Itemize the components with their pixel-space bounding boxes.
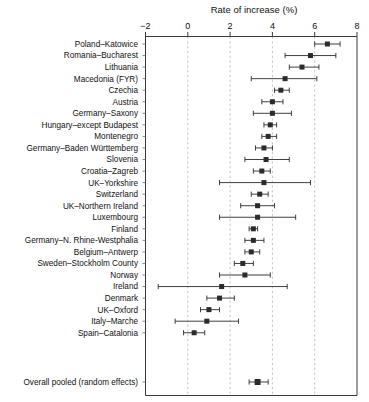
estimate-marker bbox=[217, 296, 222, 301]
study-row bbox=[251, 192, 268, 197]
estimate-marker bbox=[251, 226, 256, 231]
study-label: Hungary–except Budapest bbox=[42, 121, 139, 130]
study-row bbox=[245, 249, 260, 254]
study-label: Macedonia (FYR) bbox=[74, 75, 138, 84]
study-label: UK–Yorkshire bbox=[88, 179, 138, 188]
study-row bbox=[249, 226, 257, 231]
x-tick-label-6: 6 bbox=[312, 21, 317, 31]
x-tick-label-4: 4 bbox=[270, 21, 275, 31]
study-row bbox=[262, 134, 277, 139]
study-label: Ireland bbox=[113, 282, 138, 291]
study-label: Czechia bbox=[108, 86, 138, 95]
study-label: Slovenia bbox=[107, 155, 139, 164]
study-row bbox=[175, 319, 238, 324]
estimate-marker bbox=[268, 122, 273, 127]
study-label: Italy–Marche bbox=[91, 317, 138, 326]
estimate-marker bbox=[255, 203, 260, 208]
study-rows bbox=[158, 41, 340, 335]
study-row bbox=[264, 122, 277, 127]
study-row bbox=[285, 53, 336, 58]
study-row bbox=[251, 76, 317, 81]
estimate-marker bbox=[264, 157, 269, 162]
study-row bbox=[220, 272, 271, 277]
estimate-marker bbox=[219, 284, 224, 289]
x-tick-label--2: −2 bbox=[140, 21, 150, 31]
estimate-marker bbox=[283, 76, 288, 81]
study-row bbox=[200, 307, 219, 312]
estimate-marker bbox=[278, 88, 283, 93]
estimate-marker bbox=[192, 330, 197, 335]
study-row bbox=[184, 330, 205, 335]
estimate-marker bbox=[249, 249, 254, 254]
study-label: Sweden–Stockholm County bbox=[37, 259, 138, 268]
pooled-estimate-marker bbox=[255, 379, 261, 385]
study-label: Austria bbox=[113, 98, 139, 107]
study-label: Belgium–Antwerp bbox=[74, 248, 139, 257]
x-axis-ticks bbox=[146, 32, 358, 37]
estimate-marker bbox=[204, 319, 209, 324]
study-row bbox=[241, 203, 275, 208]
study-labels: Poland–KatowiceRomania–BucharestLithuani… bbox=[25, 40, 139, 338]
study-label: Germany–Saxony bbox=[72, 109, 138, 118]
study-row bbox=[245, 238, 264, 243]
pooled-label: Overall pooled (random effects) bbox=[23, 378, 138, 387]
study-label: Romania–Bucharest bbox=[64, 51, 139, 60]
estimate-marker bbox=[242, 273, 247, 278]
study-label: Luxembourg bbox=[92, 213, 138, 222]
study-row bbox=[255, 145, 272, 150]
plot-frame bbox=[146, 37, 358, 396]
x-axis-title: Rate of increase (%) bbox=[211, 4, 298, 15]
study-row bbox=[289, 65, 319, 70]
x-tick-label-8: 8 bbox=[354, 21, 359, 31]
study-label: Denmark bbox=[105, 294, 139, 303]
estimate-marker bbox=[300, 65, 305, 70]
study-row bbox=[253, 168, 270, 173]
estimate-marker bbox=[261, 145, 266, 150]
estimate-marker bbox=[206, 307, 211, 312]
study-label: Poland–Katowice bbox=[75, 40, 139, 49]
forest-plot: Rate of increase (%) −202468 Poland–Kato… bbox=[0, 0, 369, 402]
estimate-marker bbox=[255, 215, 260, 220]
estimate-marker bbox=[266, 134, 271, 139]
study-label: Spain–Catalonia bbox=[78, 329, 139, 338]
study-label: Germany–Baden Württemberg bbox=[27, 144, 139, 153]
study-row bbox=[234, 261, 253, 266]
study-row bbox=[315, 41, 340, 46]
x-tick-label-2: 2 bbox=[228, 21, 233, 31]
estimate-marker bbox=[270, 99, 275, 104]
study-row bbox=[220, 215, 296, 220]
study-label: UK–Northern Ireland bbox=[63, 202, 139, 211]
study-label: Germany–N. Rhine-Westphalia bbox=[25, 236, 139, 245]
study-row bbox=[220, 180, 311, 185]
estimate-marker bbox=[308, 53, 313, 58]
study-label: Finland bbox=[111, 225, 138, 234]
study-label: Norway bbox=[110, 271, 139, 280]
estimate-marker bbox=[251, 238, 256, 243]
estimate-marker bbox=[257, 192, 262, 197]
study-label: Lithuania bbox=[105, 63, 139, 72]
study-row bbox=[253, 111, 291, 116]
estimate-marker bbox=[240, 261, 245, 266]
study-label: Montenegro bbox=[94, 132, 138, 141]
study-label: UK–Oxford bbox=[98, 306, 139, 315]
estimate-marker bbox=[261, 180, 266, 185]
estimate-marker bbox=[259, 169, 264, 174]
x-axis-tick-labels: −202468 bbox=[140, 21, 359, 31]
study-row bbox=[275, 88, 290, 93]
study-row bbox=[158, 284, 287, 289]
study-label: Switzerland bbox=[96, 190, 139, 199]
x-tick-label-0: 0 bbox=[185, 21, 190, 31]
estimate-marker bbox=[270, 111, 275, 116]
study-row bbox=[245, 157, 289, 162]
study-label: Croatia–Zagreb bbox=[81, 167, 138, 176]
study-row bbox=[262, 99, 283, 104]
estimate-marker bbox=[325, 42, 330, 47]
